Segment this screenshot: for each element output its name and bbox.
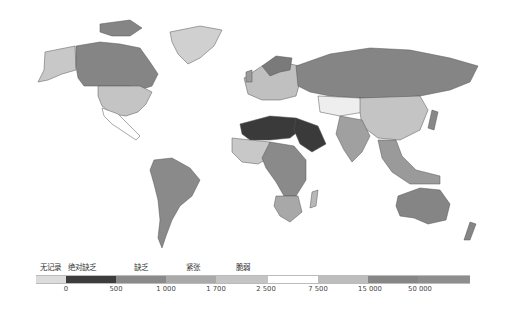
region-japan xyxy=(428,110,438,130)
legend-tick-label: 0 xyxy=(64,285,68,293)
region-central-asia xyxy=(318,96,364,116)
region-canada xyxy=(76,42,158,90)
region-southern-africa xyxy=(274,196,302,222)
region-madagascar xyxy=(310,190,318,208)
legend-category-label: 绝对缺乏 xyxy=(68,261,96,272)
region-southeast-asia xyxy=(378,140,440,184)
region-greenland xyxy=(170,26,222,64)
legend-color-segment xyxy=(36,275,66,284)
legend-color-segment xyxy=(166,275,216,284)
region-australia xyxy=(396,188,450,224)
legend-color-segment xyxy=(66,275,116,284)
region-arabia xyxy=(294,118,326,152)
legend-color-segment xyxy=(418,275,470,284)
legend-tick-label: 50 000 xyxy=(408,285,432,293)
world-map xyxy=(0,0,520,260)
legend-color-segment xyxy=(116,275,166,284)
legend-category-label: 无记录 xyxy=(40,261,61,272)
region-china-mongolia xyxy=(360,96,428,140)
legend-category-label: 缺乏 xyxy=(134,261,148,272)
legend-category-label: 紧张 xyxy=(186,261,200,272)
region-south-america xyxy=(150,158,200,248)
legend-tick-label: 500 xyxy=(110,285,123,293)
region-russia xyxy=(296,48,478,98)
legend-tick-label: 15 000 xyxy=(358,285,382,293)
legend-color-segment xyxy=(216,275,268,284)
legend-color-segment xyxy=(368,275,418,284)
region-alaska xyxy=(38,46,76,82)
region-central-africa xyxy=(262,142,306,196)
legend-color-segment xyxy=(268,275,318,284)
region-uk-iceland xyxy=(246,70,252,82)
legend-tick-label: 7 500 xyxy=(308,285,327,293)
region-new-zealand xyxy=(464,222,476,240)
legend-tick-label: 2 500 xyxy=(256,285,275,293)
legend-tick-label: 1 700 xyxy=(206,285,225,293)
legend-tick-label: 1 000 xyxy=(156,285,175,293)
region-canada-islands xyxy=(100,20,142,36)
region-north-africa xyxy=(240,116,300,140)
legend-color-segment xyxy=(318,275,368,284)
legend-category-label: 脆弱 xyxy=(236,261,250,272)
